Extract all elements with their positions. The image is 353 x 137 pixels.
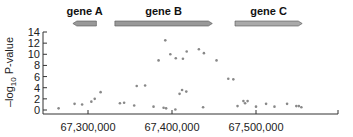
data-point: [236, 105, 239, 108]
y-tick-label: 10: [28, 48, 40, 60]
data-point: [232, 78, 235, 81]
y-tick-label: 4: [34, 82, 40, 94]
data-point: [152, 105, 155, 108]
data-point: [242, 100, 245, 103]
data-point: [298, 105, 301, 108]
x-tick-label: 67,400,000: [144, 121, 199, 133]
y-tick-label: 14: [28, 26, 40, 38]
data-point: [90, 100, 93, 103]
data-point: [286, 103, 289, 106]
data-points: [57, 39, 302, 111]
data-point: [174, 108, 177, 111]
data-point: [99, 91, 102, 94]
gene-arrow: [115, 21, 212, 26]
data-point: [81, 103, 84, 106]
data-point: [181, 89, 184, 92]
data-point: [202, 106, 205, 109]
gene-arrow: [235, 21, 302, 26]
data-point: [198, 48, 201, 51]
y-tick-label: 2: [34, 93, 40, 105]
y-tick-label: 6: [34, 71, 40, 83]
y-tick-label: 12: [28, 37, 40, 49]
y-tick-label: 0: [34, 104, 40, 116]
data-point: [273, 105, 276, 108]
data-point: [215, 59, 218, 62]
data-point: [133, 104, 136, 107]
data-point: [185, 90, 188, 93]
data-point: [135, 85, 138, 88]
data-point: [157, 59, 160, 62]
data-point: [295, 105, 298, 108]
gene-label: gene C: [250, 5, 287, 17]
data-point: [169, 53, 172, 56]
data-point: [162, 106, 165, 109]
data-point: [227, 78, 230, 81]
y-axis-label: –log10 P-value: [3, 37, 18, 107]
data-point: [165, 107, 168, 110]
data-point: [255, 105, 258, 108]
data-point: [185, 50, 188, 53]
data-point: [123, 101, 126, 104]
data-point: [164, 39, 167, 42]
gene-track: gene Agene Bgene C: [67, 5, 303, 26]
x-tick-label: 67,300,000: [60, 121, 115, 133]
x-axis: 67,300,00067,400,00067,500,000: [43, 110, 338, 133]
gene-label: gene B: [145, 5, 182, 17]
data-point: [265, 103, 268, 106]
data-point: [57, 107, 60, 110]
data-point: [182, 57, 185, 60]
y-axis: 02468101214: [28, 26, 47, 116]
data-point: [174, 57, 177, 60]
data-point: [93, 98, 96, 101]
data-point: [119, 102, 122, 105]
y-tick-label: 8: [34, 59, 40, 71]
gwas-locus-plot: gene Agene Bgene C 02468101214 67,300,00…: [0, 0, 353, 137]
gene-label: gene A: [67, 5, 103, 17]
x-tick-label: 67,500,000: [228, 121, 283, 133]
gene-arrow: [73, 21, 97, 26]
data-point: [244, 102, 247, 105]
data-point: [73, 103, 76, 106]
data-point: [300, 106, 303, 109]
data-point: [203, 52, 206, 55]
data-point: [246, 100, 249, 103]
data-point: [144, 84, 147, 87]
data-point: [178, 93, 181, 96]
